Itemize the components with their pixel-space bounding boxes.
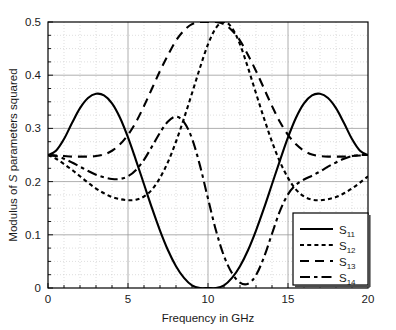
x-tick-label: 10 <box>202 293 215 305</box>
legend-shadow-right <box>368 215 371 287</box>
y-tick-label: 0.1 <box>25 229 41 241</box>
y-tick-label: 0 <box>35 282 41 294</box>
y-axis-title: Modulus of S parameters squared <box>7 68 19 241</box>
x-tick-label: 20 <box>362 293 375 305</box>
y-tick-label: 0.4 <box>25 69 42 81</box>
y-tick-label: 0.5 <box>25 16 41 28</box>
y-tick-label: 0.3 <box>25 122 41 134</box>
x-axis-title: Frequency in GHz <box>162 312 255 324</box>
x-tick-label: 5 <box>125 293 131 305</box>
x-tick-label: 0 <box>45 293 51 305</box>
legend[interactable]: S11S12S13S14 <box>293 213 371 288</box>
x-tick-label: 15 <box>282 293 295 305</box>
s-parameter-chart: 05101520 00.10.20.30.40.5 Frequency in G… <box>0 0 396 330</box>
legend-shadow-bottom <box>295 285 370 288</box>
legend-box <box>293 213 368 285</box>
figure-container: 05101520 00.10.20.30.40.5 Frequency in G… <box>0 0 396 330</box>
y-tick-label: 0.2 <box>25 176 41 188</box>
